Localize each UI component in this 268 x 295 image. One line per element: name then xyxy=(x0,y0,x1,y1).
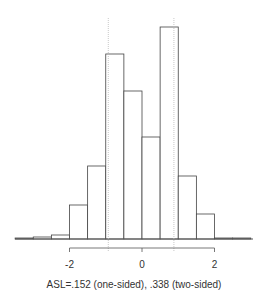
x-axis: -202 xyxy=(65,248,218,270)
histogram-bar xyxy=(196,214,214,239)
histogram-bars xyxy=(15,27,251,239)
asl-caption: ASL=.152 (one-sided), .338 (two-sided) xyxy=(0,279,268,290)
histogram-chart: -202 xyxy=(0,0,268,295)
x-tick-label: 2 xyxy=(212,259,218,270)
histogram-bar xyxy=(70,205,88,239)
histogram-bar xyxy=(124,91,142,239)
histogram-bar xyxy=(160,27,178,239)
x-tick-label: -2 xyxy=(65,259,74,270)
histogram-bar xyxy=(178,176,196,239)
histogram-bar xyxy=(142,137,160,239)
histogram-bar xyxy=(88,166,106,239)
x-tick-label: 0 xyxy=(139,259,145,270)
histogram-bar xyxy=(51,235,69,239)
